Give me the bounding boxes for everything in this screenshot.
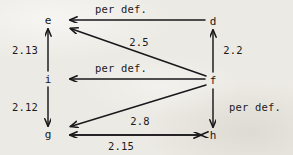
edge-label-f-to-e: 2.5 [129,37,149,48]
edge-label-f-to-g: 2.8 [130,116,150,127]
edge-label-g-and-h: 2.15 [108,141,134,152]
node-f: f [210,75,217,86]
node-e: e [45,15,52,26]
edge-label-i-to-e: 2.13 [12,45,38,56]
edge-label-i-to-g: 2.12 [12,102,38,113]
node-g: g [45,129,52,140]
edge-label-f-to-h: per def. [229,102,281,113]
node-d: d [210,16,217,27]
edge-label-f-to-d: 2.2 [223,45,243,56]
edge-label-d-to-e: per def. [95,4,147,15]
edge-label-f-to-i: per def. [95,63,147,74]
node-i: i [45,74,52,85]
diagram-canvas: e d i f g h per def. 2.5 2.13 2.2 per de… [0,0,293,155]
node-h: h [210,130,217,141]
